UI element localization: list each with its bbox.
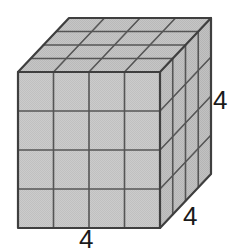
cube-diagram	[0, 0, 237, 252]
dimension-label-depth: 4	[213, 87, 227, 113]
cube-figure: 4 4 4	[0, 0, 237, 252]
dimension-label-height: 4	[183, 203, 197, 229]
dimension-label-width: 4	[79, 226, 93, 252]
